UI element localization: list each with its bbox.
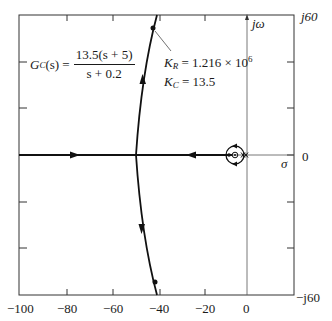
x-tick-label: −80: [57, 302, 77, 315]
leftward-arrow-icon: [186, 152, 196, 159]
x-tick-label: −60: [103, 302, 123, 315]
x-tick-label: 0: [243, 302, 250, 315]
sigma-axis-label: σ: [281, 157, 287, 170]
y-tick-label-neg-j60: −j60: [296, 291, 320, 304]
x-tick-label: −40: [149, 302, 169, 315]
loop-pole-dot: [227, 153, 231, 157]
kc-value: = 13.5: [179, 74, 216, 89]
kc-symbol: K: [164, 74, 173, 89]
zero-center-dot: [234, 154, 236, 156]
kr-exponent: 6: [248, 54, 253, 64]
gc-arg: (s) =: [45, 57, 69, 73]
loop-arrow-bottom-icon: [232, 162, 237, 167]
closed-loop-pole-lower: [153, 280, 158, 285]
compensator-fraction: 13.5(s + 5) s + 0.2: [74, 47, 135, 82]
kr-line: KR = 1.216 × 106: [164, 51, 253, 74]
jw-axis-label: jω: [252, 17, 265, 30]
rightward-arrow-icon: [70, 152, 80, 159]
annotation-pointer: [155, 31, 171, 51]
x-tick-label: −20: [195, 302, 215, 315]
kr-symbol: K: [164, 55, 173, 70]
kc-line: KC = 13.5: [164, 74, 253, 93]
x-tick-label: −100: [7, 302, 34, 315]
compensator-numerator: 13.5(s + 5): [74, 47, 135, 65]
gc-symbol: G: [30, 57, 39, 73]
loop-arrow-top-icon: [232, 144, 237, 149]
gain-annotation: KR = 1.216 × 106 KC = 13.5: [164, 51, 253, 93]
compensator-denominator: s + 0.2: [87, 65, 122, 82]
y-tick-label-j60: j60: [301, 10, 318, 23]
compensator-equation: GC(s) = 13.5(s + 5) s + 0.2: [30, 47, 135, 82]
y-tick-label-0: 0: [302, 150, 309, 163]
closed-loop-pole-upper: [151, 26, 156, 31]
kr-value: = 1.216 × 10: [178, 55, 248, 70]
